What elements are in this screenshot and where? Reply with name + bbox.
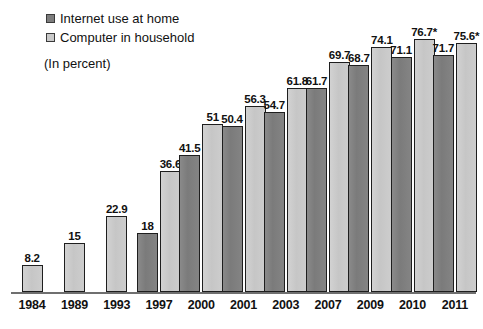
x-tick-2003: 2003 [272,298,299,312]
x-tick-1993: 1993 [103,298,130,312]
bar-1997-computer-in-household: 36.6 [160,171,181,292]
bar-2000-computer-in-household: 51 [202,124,223,292]
bar-value-label-2011-computer-in-household: 75.6* [453,30,479,42]
bar-2010-computer-in-household: 76.7* [414,39,435,292]
bar-wrap-1997-internet-use-at-home: 18 [137,8,158,292]
bar-value-label-1997-computer-in-household: 36.6 [160,158,182,170]
bar-wrap-1997-computer-in-household: 36.6 [160,8,181,292]
bar-wrap-2007-computer-in-household: 69.7 [329,8,350,292]
bar-wrap-2001-computer-in-household: 56.3 [245,8,266,292]
x-axis-tick-labels: 1984198919931997200020012003200720092010… [11,298,476,320]
bar-group-2007: 61.769.7 [306,8,350,292]
bar-1993-computer-in-household: 22.9 [106,216,127,292]
bar-group-1989: 15 [64,8,85,292]
bar-value-label-2000-internet-use-at-home: 41.5 [179,142,201,154]
bar-value-label-1993-computer-in-household: 22.9 [106,203,128,215]
bar-wrap-2011-computer-in-household: 75.6* [456,8,477,292]
bar-1997-internet-use-at-home: 18 [137,233,158,292]
bar-group-1997: 1836.6 [137,8,181,292]
bar-2000-internet-use-at-home: 41.5 [179,155,200,292]
bar-value-label-2007-internet-use-at-home: 61.7 [306,75,328,87]
bar-group-2000: 41.551 [179,8,223,292]
x-tick-1989: 1989 [61,298,88,312]
bar-wrap-2010-internet-use-at-home: 71.1 [391,8,412,292]
bar-group-1993: 22.9 [106,8,127,292]
x-axis-baseline [11,292,476,294]
bar-group-2009: 68.774.1 [348,8,392,292]
bar-value-label-2003-internet-use-at-home: 54.7 [263,99,285,111]
bar-wrap-2001-internet-use-at-home: 50.4 [222,8,243,292]
bar-wrap-2007-internet-use-at-home: 61.7 [306,8,327,292]
bar-wrap-2009-computer-in-household: 74.1 [371,8,392,292]
bar-group-2010: 71.176.7* [391,8,435,292]
bar-2007-internet-use-at-home: 61.7 [306,88,327,292]
bar-value-label-2011-internet-use-at-home: 71.7 [433,42,455,54]
x-tick-2011: 2011 [442,298,468,312]
bar-wrap-2000-internet-use-at-home: 41.5 [179,8,200,292]
bar-2009-computer-in-household: 74.1 [371,47,392,292]
bar-group-2003: 54.761.8 [264,8,308,292]
bar-chart: Internet use at home Computer in househo… [0,0,483,329]
bar-group-1984: 8.2 [22,8,43,292]
bar-wrap-2009-internet-use-at-home: 68.7 [348,8,369,292]
bar-wrap-2011-internet-use-at-home: 71.7 [433,8,454,292]
bar-wrap-1993-computer-in-household: 22.9 [106,8,127,292]
plot-area: 8.21522.91836.641.55150.456.354.761.861.… [11,8,476,294]
bar-wrap-1989-computer-in-household: 15 [64,8,85,292]
bar-group-2001: 50.456.3 [222,8,266,292]
bar-wrap-1984-computer-in-household: 8.2 [22,8,43,292]
bar-value-label-1989-computer-in-household: 15 [68,230,80,242]
bar-value-label-1997-internet-use-at-home: 18 [141,220,153,232]
bar-value-label-2009-internet-use-at-home: 68.7 [348,52,370,64]
bar-wrap-2010-computer-in-household: 76.7* [414,8,435,292]
bar-value-label-2001-internet-use-at-home: 50.4 [221,113,243,125]
bar-1989-computer-in-household: 15 [64,243,85,293]
bar-value-label-2010-internet-use-at-home: 71.1 [390,44,412,56]
bar-2009-internet-use-at-home: 68.7 [348,65,369,292]
x-tick-1984: 1984 [19,298,46,312]
bar-2001-computer-in-household: 56.3 [245,106,266,292]
bar-group-2011: 71.775.6* [433,8,477,292]
x-tick-2010: 2010 [399,298,426,312]
x-tick-2001: 2001 [230,298,257,312]
bar-2011-computer-in-household: 75.6* [456,43,477,292]
bar-wrap-2003-computer-in-household: 61.8 [287,8,308,292]
bar-2003-computer-in-household: 61.8 [287,88,308,292]
bar-2001-internet-use-at-home: 50.4 [222,126,243,292]
bar-2010-internet-use-at-home: 71.1 [391,57,412,292]
x-tick-2009: 2009 [357,298,384,312]
x-tick-2007: 2007 [315,298,342,312]
bar-2003-internet-use-at-home: 54.7 [264,112,285,293]
bar-wrap-2003-internet-use-at-home: 54.7 [264,8,285,292]
x-tick-1997: 1997 [145,298,172,312]
bar-value-label-2000-computer-in-household: 51 [207,111,219,123]
bar-2007-computer-in-household: 69.7 [329,62,350,292]
bar-wrap-2000-computer-in-household: 51 [202,8,223,292]
bar-2011-internet-use-at-home: 71.7 [433,55,454,292]
x-tick-2000: 2000 [188,298,215,312]
bar-value-label-1984-computer-in-household: 8.2 [24,252,39,264]
bar-1984-computer-in-household: 8.2 [22,265,43,292]
